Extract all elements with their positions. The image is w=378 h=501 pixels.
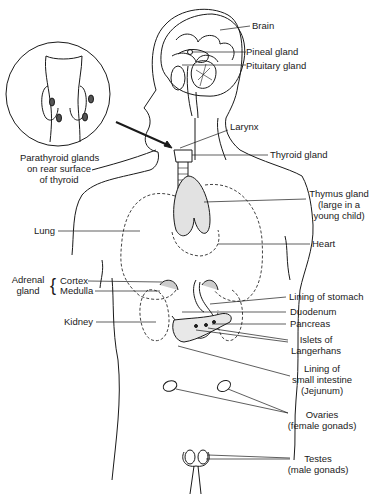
thymus <box>174 176 210 236</box>
label-medulla: Medulla <box>60 285 93 296</box>
label-pineal-gland: Pineal gland <box>246 46 298 57</box>
label-small-intestine-line-2: small intestine <box>280 374 364 385</box>
label-islets-line-1: Islets of <box>280 334 352 345</box>
inset-circle <box>6 42 110 146</box>
label-adrenal-line-1: Adrenal <box>8 274 48 285</box>
label-pituitary-gland: Pituitary gland <box>246 60 306 71</box>
label-heart: Heart <box>312 238 335 249</box>
inset-caption-line-2: on rear surface <box>20 163 98 174</box>
label-thymus-line-1: Thymus gland <box>304 188 374 199</box>
label-thyroid-gland: Thyroid gland <box>270 149 328 160</box>
label-brain: Brain <box>252 20 274 31</box>
label-kidney: Kidney <box>64 316 93 327</box>
adrenal-right <box>202 280 218 290</box>
label-lining-of-small-intestine: Lining of small intestine (Jejunum) <box>280 363 364 396</box>
label-islets-line-2: Langerhans <box>280 345 352 356</box>
label-thymus-gland: Thymus gland (large in a young child) <box>304 188 374 221</box>
inset-caption: Parathyroid glands on rear surface of th… <box>20 152 98 185</box>
label-thymus-line-3: young child) <box>304 210 374 221</box>
label-testes-line-1: Testes <box>276 453 360 464</box>
label-islets-of-langerhans: Islets of Langerhans <box>280 334 352 356</box>
adrenal-left <box>160 280 178 290</box>
label-small-intestine-line-3: (Jejunum) <box>280 385 364 396</box>
label-lining-of-stomach: Lining of stomach <box>289 291 363 302</box>
label-adrenal-line-2: gland <box>8 285 48 296</box>
label-testes-line-2: (male gonads) <box>276 464 360 475</box>
testis-right <box>198 450 208 464</box>
adrenal-brace: { <box>50 274 56 296</box>
label-ovaries-line-2: (female gonads) <box>276 420 368 431</box>
label-lung: Lung <box>34 225 55 236</box>
label-larynx: Larynx <box>230 121 259 132</box>
ovary-right <box>215 378 232 394</box>
inset-pointer-arrow <box>116 122 170 146</box>
label-thymus-line-2: (large in a <box>304 199 374 210</box>
inset-caption-line-1: Parathyroid glands <box>20 152 98 163</box>
label-pancreas: Pancreas <box>290 318 330 329</box>
ovary-left <box>162 379 179 393</box>
inset-caption-line-3: of thyroid <box>20 174 98 185</box>
label-ovaries-line-1: Ovaries <box>276 409 368 420</box>
testis-left <box>185 450 195 464</box>
label-adrenal-gland: Adrenal gland <box>8 274 48 296</box>
larynx <box>174 150 192 162</box>
label-testes: Testes (male gonads) <box>276 453 360 475</box>
label-duodenum: Duodenum <box>290 306 336 317</box>
label-small-intestine-line-1: Lining of <box>280 363 364 374</box>
brainstem <box>187 66 198 118</box>
label-ovaries: Ovaries (female gonads) <box>276 409 368 431</box>
